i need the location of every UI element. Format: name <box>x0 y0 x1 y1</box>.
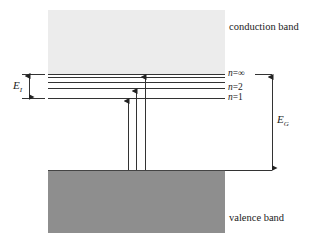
ionization-energy-label: EI <box>13 80 22 94</box>
transition-arrows <box>129 77 146 170</box>
level-n-infinity-label: n=∞ <box>228 69 245 79</box>
ionization-energy-bracket <box>22 75 45 99</box>
level-n1-label: n=1 <box>228 93 243 103</box>
diagram-lines <box>0 0 312 242</box>
valence-band-label: valence band <box>229 213 284 224</box>
band-gap-label: EG <box>277 114 289 128</box>
conduction-band-label: conduction band <box>229 22 299 33</box>
